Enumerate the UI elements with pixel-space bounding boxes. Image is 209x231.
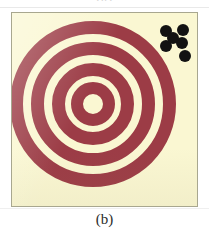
top-divider-rule bbox=[0, 7, 209, 8]
figure-root: (a) (b) bbox=[0, 0, 209, 231]
ring-bullseye bbox=[71, 82, 115, 126]
pellet-hole-6 bbox=[167, 32, 179, 44]
target-image-panel bbox=[11, 12, 198, 207]
pellet-hole-2 bbox=[177, 24, 189, 36]
figure-caption: (b) bbox=[0, 209, 209, 229]
caption-above-clipped: (a) bbox=[0, 0, 209, 1]
pellet-hole-5 bbox=[179, 50, 191, 62]
